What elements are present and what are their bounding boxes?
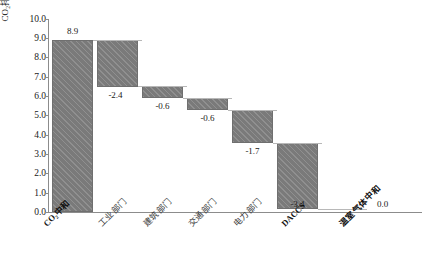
connector-line [273,143,322,144]
bar-industry [97,40,138,87]
value-label-co2-neutral: 8.9 [52,27,93,36]
connector-line [138,86,187,87]
y-tick-1: 1.0 [12,189,46,199]
bar-power [232,110,273,143]
y-tick-7: 7.0 [12,73,46,83]
y-tick-2: 2.0 [12,169,46,179]
value-label-power: -1.7 [230,147,275,156]
value-label-transport: -0.6 [185,114,230,123]
connector-line [93,40,142,41]
y-tick-9: 9.0 [12,34,46,44]
bar-transport [187,98,228,110]
y-tick-10: 10.0 [12,15,46,25]
y-tick-8: 8.0 [12,53,46,63]
connector-line [183,98,232,99]
y-tick-4: 4.0 [12,131,46,141]
y-tick-5: 5.0 [12,111,46,121]
y-axis-tick-labels: 10.0 9.0 8.0 7.0 6.0 5.0 4.0 3.0 2.0 1.0… [8,0,46,274]
y-axis-line [48,19,49,213]
y-tick-3: 3.0 [12,150,46,160]
y-tick-0: 0.0 [12,208,46,218]
value-label-building: -0.6 [140,102,185,111]
value-label-industry: -2.4 [93,91,138,100]
y-tick-6: 6.0 [12,92,46,102]
connector-line [228,110,277,111]
bar-co2-neutral [52,40,93,212]
bar-building [142,86,183,98]
waterfall-chart: CO₂排放量/亿吨 10.0 9.0 8.0 7.0 6.0 5.0 4.0 3… [0,0,426,274]
